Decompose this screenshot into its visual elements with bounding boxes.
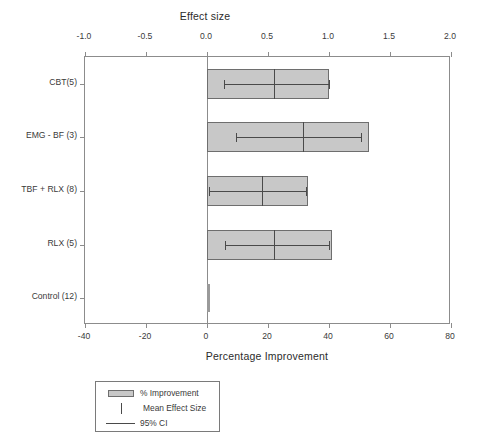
category-axis-tick (80, 298, 85, 299)
top-axis-tick (390, 52, 391, 57)
confidence-interval-line (236, 137, 360, 138)
mean-effect-size-marker (274, 69, 275, 99)
bottom-axis-tick (329, 323, 330, 328)
top-axis-tick-label: 0.0 (200, 31, 212, 41)
bottom-axis-tick-label: 20 (262, 331, 272, 341)
bottom-axis-tick (451, 323, 452, 328)
bottom-axis-tick (85, 323, 86, 328)
category-axis-tick (80, 84, 85, 85)
bottom-axis-tick (268, 323, 269, 328)
legend-key-mean (106, 401, 136, 416)
legend-key-improvement (106, 386, 136, 401)
ci-upper-cap (329, 241, 330, 250)
ci-lower-cap (224, 80, 225, 89)
legend-label: 95% CI (140, 418, 167, 428)
bottom-axis-tick (207, 323, 208, 328)
ci-lower-cap (209, 187, 210, 196)
bottom-axis-tick-label: 40 (323, 331, 333, 341)
bottom-axis-title: Percentage Improvement (206, 350, 328, 362)
top-axis-tick-label: -1.0 (77, 31, 92, 41)
category-label: RLX (5) (47, 238, 77, 248)
ci-lower-cap (236, 133, 237, 142)
top-axis-tick (85, 52, 86, 57)
legend-label: Mean Effect Size (143, 403, 206, 413)
mean-effect-size-marker (303, 122, 304, 152)
legend-line-icon (106, 423, 135, 424)
bottom-axis-tick-label: 60 (384, 331, 394, 341)
legend-item: % Improvement (96, 386, 219, 401)
top-axis-tick-label: 2.0 (444, 31, 456, 41)
bottom-axis-tick-label: 0 (204, 331, 209, 341)
chart-legend: % ImprovementMean Effect Size95% CI (95, 381, 220, 432)
top-axis-tick (329, 52, 330, 57)
bottom-axis-tick-label: -20 (139, 331, 151, 341)
confidence-interval-line (209, 191, 305, 192)
ci-upper-cap (306, 187, 307, 196)
top-axis-tick (207, 52, 208, 57)
confidence-interval-line (225, 245, 329, 246)
ci-lower-cap (225, 241, 226, 250)
category-axis-tick (80, 137, 85, 138)
top-axis-tick (146, 52, 147, 57)
confidence-interval-line (224, 84, 329, 85)
legend-key-ci (106, 416, 136, 431)
bottom-axis-tick (390, 323, 391, 328)
category-axis-tick (80, 191, 85, 192)
legend-tick-icon (121, 403, 122, 414)
plot-area (84, 56, 450, 324)
category-label: EMG - BF (3) (26, 130, 77, 140)
top-axis-tick-label: 0.5 (261, 31, 273, 41)
top-axis-tick-label: -0.5 (138, 31, 153, 41)
bottom-axis-tick-label: -40 (78, 331, 90, 341)
top-axis-tick-label: 1.5 (383, 31, 395, 41)
top-axis-title: Effect size (180, 10, 230, 22)
mean-effect-size-marker (274, 230, 275, 260)
top-axis-tick (268, 52, 269, 57)
bar (207, 284, 210, 312)
category-label: TBF + RLX (8) (21, 184, 77, 194)
mean-effect-size-marker (262, 176, 263, 206)
ci-upper-cap (329, 80, 330, 89)
legend-label: % Improvement (140, 388, 199, 398)
category-label: CBT(5) (49, 77, 77, 87)
chart-figure: Effect size Percentage Improvement -1.0-… (0, 0, 482, 439)
ci-upper-cap (361, 133, 362, 142)
legend-swatch-icon (108, 390, 134, 397)
top-axis-tick-label: 1.0 (322, 31, 334, 41)
category-label: Control (12) (32, 291, 77, 301)
bottom-axis-tick (146, 323, 147, 328)
legend-item: Mean Effect Size (96, 401, 219, 416)
bottom-axis-tick-label: 80 (445, 331, 455, 341)
top-axis-tick (451, 52, 452, 57)
legend-item: 95% CI (96, 416, 219, 431)
category-axis-tick (80, 245, 85, 246)
